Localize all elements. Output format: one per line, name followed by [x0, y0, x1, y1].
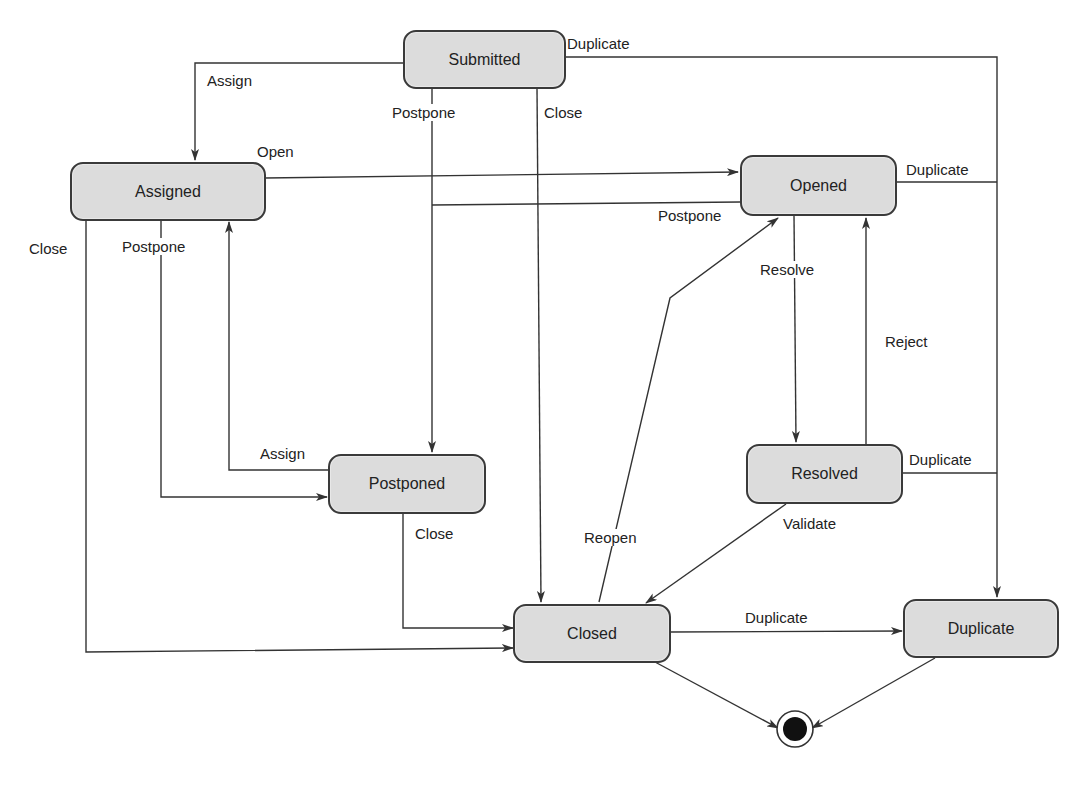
label-opened-resolve: Resolve: [758, 261, 816, 278]
label-resolved-duplicate: Duplicate: [909, 451, 972, 468]
label-postponed-assign: Assign: [260, 445, 305, 462]
state-assigned[interactable]: Assigned: [70, 162, 266, 221]
edge-resolved-closed: [646, 504, 786, 603]
edge-opened-resolved: [794, 215, 796, 442]
final-state-icon: [777, 711, 813, 747]
label-submitted-duplicate: Duplicate: [567, 35, 630, 52]
edge-postponed-assigned: [229, 222, 329, 470]
label-resolved-reject: Reject: [885, 333, 928, 350]
state-submitted-label: Submitted: [448, 51, 520, 69]
state-assigned-label: Assigned: [135, 183, 201, 201]
state-opened[interactable]: Opened: [740, 155, 897, 216]
label-closed-reopen: Reopen: [582, 529, 639, 546]
edge-assigned-opened: [265, 172, 738, 178]
label-submitted-postpone: Postpone: [390, 104, 457, 121]
label-resolved-validate: Validate: [783, 515, 836, 532]
state-duplicate-label: Duplicate: [948, 620, 1015, 638]
edge-closed-final: [655, 662, 778, 728]
label-assigned-postpone: Postpone: [120, 238, 187, 255]
label-assigned-open: Open: [257, 143, 294, 160]
state-closed[interactable]: Closed: [513, 604, 671, 663]
transition-edges: [0, 0, 1085, 786]
state-resolved-label: Resolved: [791, 465, 858, 483]
edge-submitted-duplicate: [565, 57, 997, 597]
label-postponed-close: Close: [415, 525, 453, 542]
state-postponed-label: Postponed: [369, 475, 446, 493]
state-duplicate[interactable]: Duplicate: [903, 599, 1059, 658]
edge-closed-duplicate: [670, 631, 902, 632]
state-postponed[interactable]: Postponed: [328, 454, 486, 514]
edge-submitted-closed: [537, 88, 541, 602]
label-opened-duplicate: Duplicate: [906, 161, 969, 178]
label-submitted-assign: Assign: [207, 72, 252, 89]
edge-assigned-closed: [86, 220, 513, 652]
state-submitted[interactable]: Submitted: [403, 30, 566, 89]
edge-duplicate-final: [812, 658, 935, 728]
state-resolved[interactable]: Resolved: [746, 444, 903, 504]
label-closed-duplicate: Duplicate: [745, 609, 808, 626]
edge-opened-postponed: [432, 202, 740, 205]
state-opened-label: Opened: [790, 177, 847, 195]
label-opened-postpone: Postpone: [658, 207, 721, 224]
state-closed-label: Closed: [567, 625, 617, 643]
state-diagram: Submitted Assigned Opened Postponed Reso…: [0, 0, 1085, 786]
label-submitted-close: Close: [544, 104, 582, 121]
label-assigned-close: Close: [29, 240, 67, 257]
